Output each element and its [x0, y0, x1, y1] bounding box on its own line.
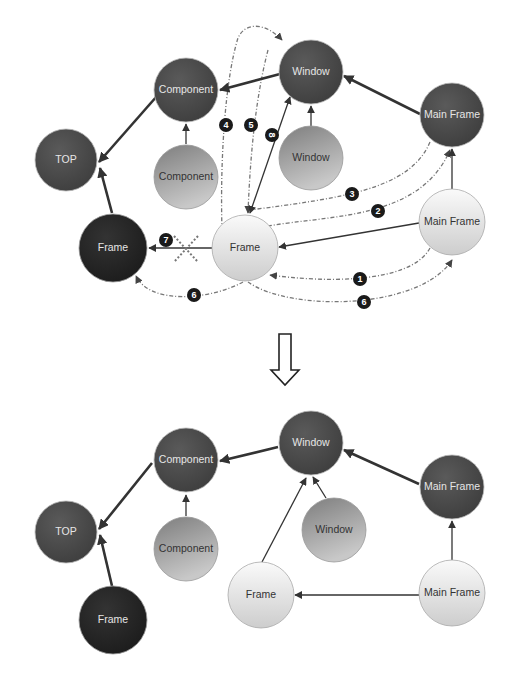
edge-mainframe-light-to-frame-light — [279, 223, 419, 247]
step-badge-4: 4 — [219, 118, 233, 132]
step-badge-6a: 6 — [187, 288, 201, 302]
node-window-child-after: Window — [302, 498, 366, 562]
svg-text:2: 2 — [375, 206, 380, 216]
svg-text:6: 6 — [191, 290, 196, 300]
svg-text:Component: Component — [159, 542, 213, 554]
edge-mainframe-to-window-after — [344, 450, 419, 484]
step-badge-3: 3 — [345, 187, 359, 201]
svg-text:Component: Component — [159, 170, 213, 182]
svg-text:Frame: Frame — [246, 588, 276, 600]
step-badge-6b: 6 — [357, 295, 371, 309]
node-component-child: Component — [154, 145, 218, 209]
edge-frame-to-top-after — [100, 535, 112, 586]
svg-text:Frame: Frame — [98, 613, 128, 625]
svg-text:Window: Window — [292, 436, 330, 448]
node-component-parent-after: Component — [154, 428, 218, 492]
svg-text:3: 3 — [349, 189, 354, 199]
svg-text:Main Frame: Main Frame — [424, 108, 480, 120]
svg-text:5: 5 — [248, 120, 253, 130]
svg-text:Component: Component — [159, 83, 213, 95]
step-badge-2: 2 — [371, 204, 385, 218]
svg-text:1: 1 — [357, 274, 362, 284]
after-diagram: Window Component Main Frame TOP Componen… — [35, 411, 485, 654]
step-badge-5: 5 — [244, 118, 258, 132]
node-frame-dark: Frame — [79, 214, 147, 282]
node-mainframe-light: Main Frame — [419, 189, 485, 255]
cross-out-icon — [174, 236, 198, 262]
svg-text:Component: Component — [159, 453, 213, 465]
node-frame-light-after: Frame — [228, 562, 294, 628]
edge-component-to-top — [99, 96, 157, 162]
svg-text:Main Frame: Main Frame — [424, 480, 480, 492]
node-mainframe-parent-after: Main Frame — [420, 455, 484, 519]
node-window-child: Window — [279, 126, 343, 190]
node-frame-dark-after: Frame — [79, 586, 147, 654]
svg-text:TOP: TOP — [55, 525, 76, 537]
edge-step-6b — [248, 260, 452, 302]
node-window-parent-after: Window — [279, 411, 343, 475]
node-component-child-after: Component — [154, 517, 218, 581]
svg-text:Window: Window — [292, 65, 330, 77]
node-top-after: TOP — [35, 501, 97, 563]
node-frame-light: Frame — [212, 215, 278, 281]
svg-text:Main Frame: Main Frame — [424, 215, 480, 227]
node-top: TOP — [35, 129, 97, 191]
node-component-parent: Component — [154, 58, 218, 122]
solid-edges — [99, 74, 452, 248]
node-mainframe-parent: Main Frame — [420, 83, 484, 147]
edge-step-1 — [270, 248, 430, 279]
edge-frame-light-to-window-after — [262, 478, 306, 562]
svg-text:Frame: Frame — [230, 241, 260, 253]
svg-text:TOP: TOP — [55, 153, 76, 165]
edge-window-to-component-after — [220, 447, 278, 461]
hollow-down-arrow-icon — [271, 334, 299, 385]
before-diagram: Component Window Main Frame TOP Componen… — [35, 26, 485, 309]
node-mainframe-light-after: Main Frame — [419, 560, 485, 626]
step-badge-1: 1 — [353, 272, 367, 286]
svg-text:Window: Window — [292, 151, 330, 163]
edge-window-child-to-parent-after — [313, 477, 326, 498]
edge-component-to-top-after — [99, 463, 152, 529]
edge-mainframe-to-window — [344, 76, 420, 114]
svg-text:Main Frame: Main Frame — [424, 586, 480, 598]
svg-text:Frame: Frame — [98, 241, 128, 253]
svg-text:8: 8 — [267, 132, 277, 137]
step-badge-7: 7 — [159, 233, 173, 247]
svg-text:Window: Window — [315, 523, 353, 535]
svg-text:6: 6 — [361, 297, 366, 307]
edge-frame-to-top — [100, 168, 112, 213]
svg-text:4: 4 — [223, 120, 228, 130]
node-window-parent: Window — [279, 40, 343, 104]
step-badge-8: 8 — [265, 128, 279, 142]
svg-text:7: 7 — [163, 235, 168, 245]
class-hierarchy-diagram: Component Window Main Frame TOP Componen… — [0, 0, 515, 687]
